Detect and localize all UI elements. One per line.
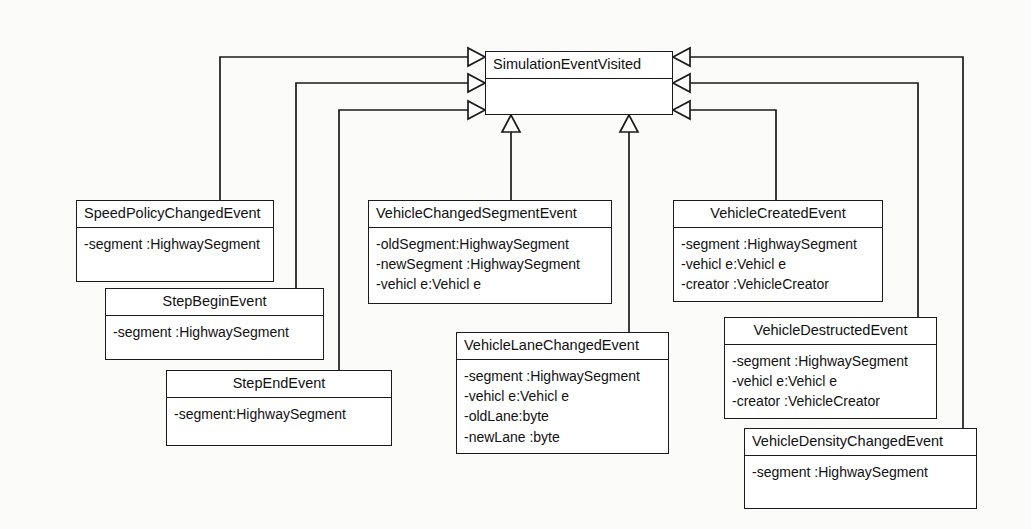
class-attributes: -segment :HighwaySegment -vehicl e:Vehic… — [725, 345, 936, 419]
generalization-arrowhead — [620, 115, 638, 132]
class-title: VehicleLaneChangedEvent — [457, 333, 668, 360]
class-attributes: -segment :HighwaySegment -vehicl e:Vehic… — [674, 228, 882, 302]
class-attributes: -oldSegment:HighwaySegment -newSegment :… — [369, 228, 611, 302]
class-title: VehicleCreatedEvent — [674, 201, 882, 228]
attribute-row: -vehicl e:Vehicl e — [732, 371, 929, 391]
class-title: VehicleChangedSegmentEvent — [369, 201, 611, 228]
class-attributes — [486, 79, 672, 92]
class-title: StepBeginEvent — [106, 289, 323, 316]
class-box-step-end-event[interactable]: StepEndEvent -segment:HighwaySegment — [166, 370, 392, 446]
class-title: StepEndEvent — [167, 371, 391, 398]
class-box-vehicle-destructed-event[interactable]: VehicleDestructedEvent -segment :Highway… — [724, 317, 937, 419]
attribute-row: -segment :HighwaySegment — [681, 234, 875, 254]
attribute-row: -oldSegment:HighwaySegment — [376, 234, 604, 254]
class-box-simulation-event-visited[interactable]: SimulationEventVisited — [485, 51, 673, 115]
class-attributes: -segment :HighwaySegment — [106, 316, 323, 349]
attribute-row: -creator :VehicleCreator — [732, 391, 929, 411]
attribute-row: -segment :HighwaySegment — [752, 462, 969, 482]
class-box-vehicle-created-event[interactable]: VehicleCreatedEvent -segment :HighwaySeg… — [673, 200, 883, 302]
class-attributes: -segment :HighwaySegment — [77, 228, 273, 261]
attribute-row: -creator :VehicleCreator — [681, 274, 875, 294]
class-box-step-begin-event[interactable]: StepBeginEvent -segment :HighwaySegment — [105, 288, 324, 360]
class-box-vehicle-changed-segment-event[interactable]: VehicleChangedSegmentEvent -oldSegment:H… — [368, 200, 612, 304]
generalization-arrowhead — [502, 115, 520, 132]
generalization-arrowhead — [468, 74, 485, 92]
class-box-speed-policy-changed-event[interactable]: SpeedPolicyChangedEvent -segment :Highwa… — [76, 200, 274, 282]
attribute-row: -segment:HighwaySegment — [174, 404, 384, 424]
generalization-arrowhead — [673, 101, 690, 119]
class-attributes: -segment :HighwaySegment — [745, 456, 976, 489]
connector-vehicle-created-event — [689, 110, 776, 200]
attribute-row: -segment :HighwaySegment — [84, 234, 266, 254]
attribute-row: -segment :HighwaySegment — [113, 322, 316, 342]
generalization-arrowhead — [673, 48, 690, 66]
class-box-vehicle-density-changed-event[interactable]: VehicleDensityChangedEvent -segment :Hig… — [744, 428, 977, 509]
generalization-arrowhead — [468, 101, 485, 119]
uml-class-diagram-canvas: SimulationEventVisited SpeedPolicyChange… — [0, 0, 1031, 529]
attribute-row: -segment :HighwaySegment — [464, 366, 661, 386]
class-box-vehicle-lane-changed-event[interactable]: VehicleLaneChangedEvent -segment :Highwa… — [456, 332, 669, 454]
class-title: SimulationEventVisited — [486, 52, 672, 79]
class-title: VehicleDestructedEvent — [725, 318, 936, 345]
class-attributes: -segment:HighwaySegment — [167, 398, 391, 431]
class-title: VehicleDensityChangedEvent — [745, 429, 976, 456]
attribute-row: -vehicl e:Vehicl e — [681, 254, 875, 274]
class-attributes: -segment :HighwaySegment -vehicl e:Vehic… — [457, 360, 668, 454]
connector-speed-policy-changed-event — [220, 57, 469, 200]
generalization-arrowhead — [673, 74, 690, 92]
attribute-row: -vehicl e:Vehicl e — [464, 386, 661, 406]
attribute-row: -newSegment :HighwaySegment — [376, 254, 604, 274]
class-title: SpeedPolicyChangedEvent — [77, 201, 273, 228]
generalization-arrowhead — [468, 48, 485, 66]
attribute-row: -vehicl e:Vehicl e — [376, 274, 604, 294]
attribute-row: -segment :HighwaySegment — [732, 351, 929, 371]
attribute-row: -newLane :byte — [464, 427, 661, 447]
attribute-row: -oldLane:byte — [464, 406, 661, 426]
